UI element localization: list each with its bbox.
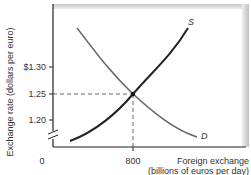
x-axis-label-line1: Foreign exchange [177, 156, 249, 166]
x-tick-label-0: 0 [39, 156, 44, 166]
supply-demand-chart: $1.30 1.25 1.20 0 800 Exchange rate (dol… [0, 0, 251, 175]
demand-label: D [201, 131, 208, 141]
demand-curve [77, 28, 197, 137]
y-tick-label-130: $1.30 [23, 62, 46, 72]
x-tick-label-800: 800 [125, 156, 140, 166]
frame-right-shade [242, 4, 249, 147]
y-axis-label: Exchange rate (dollars per euro) [5, 27, 15, 156]
y-tick-label-125: 1.25 [28, 89, 46, 99]
y-axis-break-icon [48, 130, 58, 139]
equilibrium-point [131, 92, 135, 96]
supply-label: S [188, 17, 194, 27]
x-axis-label-line2: (billions of euros per day) [148, 166, 249, 175]
frame-top-shade [53, 4, 249, 9]
y-tick-label-120: 1.20 [28, 115, 46, 125]
